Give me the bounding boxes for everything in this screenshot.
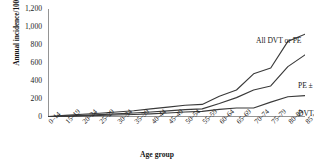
y-axis-tick-label: 1,200	[8, 5, 42, 13]
series-label-all-dvt-or-pe: All DVT or PE	[256, 36, 301, 45]
y-axis-tick-label: 1,000	[8, 23, 42, 31]
x-axis-title: Age group	[0, 150, 314, 159]
y-axis-tick-label: 400	[8, 77, 42, 85]
plot-area: All DVT or PE PE ± DVT DVT alone	[48, 9, 305, 117]
y-axis-tick-label: 600	[8, 59, 42, 67]
x-axis-tick-labels: 0–1415–1920–2425–2930–3435–3940–4445–495…	[0, 118, 314, 150]
y-axis-tick-label: 200	[8, 95, 42, 103]
series-lines	[48, 34, 305, 117]
series-line-pe-dvt	[48, 55, 305, 117]
series-label-pe-plus-minus-dvt: PE ± DVT	[298, 81, 314, 90]
axes	[48, 9, 305, 117]
y-axis-tick-label: 800	[8, 41, 42, 49]
plot-svg	[48, 9, 305, 117]
line-chart: Annual incidence/100,000 02004006008001,…	[0, 0, 314, 167]
